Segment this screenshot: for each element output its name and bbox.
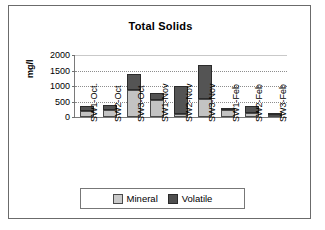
y-tick-label: 2000 [40,50,70,60]
x-tick-label: SW1-Nov [160,83,170,122]
y-tick-1500 [72,71,75,72]
chart-frame: Total Solids mg/l 2000 1500 1000 500 0 S… [8,5,311,219]
y-tick-label: 500 [40,97,70,107]
x-tick-label: SW2-Oct [113,85,123,122]
x-tick-label: SW3-Nov [207,83,217,122]
legend-swatch-volatile [168,194,178,204]
x-axis-category-labels: SW1-Oct.SW2-OctSW3-OctSW1-NovSW2-NovSW3-… [74,120,286,182]
plot-top-rule [75,55,287,56]
y-tick-500 [72,102,75,103]
legend-item-mineral: Mineral [113,193,158,204]
x-tick-label: SW2-Feb [254,84,264,122]
legend-swatch-mineral [113,194,123,204]
y-axis-tick-labels: 2000 1500 1000 500 0 [37,55,70,117]
y-tick-2000 [72,55,75,56]
y-axis-title: mg/l [25,59,35,78]
y-tick-label: 1500 [40,66,70,76]
x-tick-label: SW3-Feb [278,84,288,122]
y-tick-label: 1000 [40,81,70,91]
y-tick-1000 [72,86,75,87]
chart-legend: Mineral Volatile [80,188,245,209]
gridline-1500 [75,71,287,72]
y-tick-0 [72,117,75,118]
legend-item-volatile: Volatile [168,193,213,204]
legend-label-volatile: Volatile [182,193,213,204]
chart-title: Total Solids [9,20,312,32]
x-tick-label: SW1-Feb [231,84,241,122]
x-tick-label: SW3-Oct [136,85,146,122]
y-tick-label: 0 [40,112,70,122]
x-tick-label: SW2-Nov [184,83,194,122]
legend-label-mineral: Mineral [127,193,158,204]
x-tick-label: SW1-Oct. [89,83,99,122]
